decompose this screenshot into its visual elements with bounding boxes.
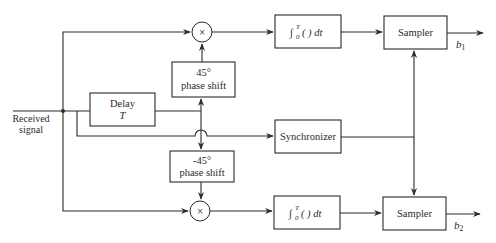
multiplier-top: × <box>192 22 212 42</box>
synchronizer-block: Synchronizer <box>275 120 341 153</box>
delay-block: Delay T <box>90 93 155 126</box>
integrator-bottom-block: ∫ 0 T ( ) dt <box>274 196 340 229</box>
sampler-top-block: Sampler <box>384 16 447 49</box>
sampler-bottom-block: Sampler <box>383 197 446 230</box>
block-diagram: Received signal Delay T 45° ph <box>0 0 496 243</box>
phase-pos-label: phase shift <box>181 80 226 91</box>
delay-output-wire <box>155 99 201 149</box>
integral-body: ( ) dt <box>302 27 323 39</box>
multiply-icon: × <box>197 207 204 216</box>
output-b1-label: b1 <box>456 38 466 52</box>
phase-neg-label: phase shift <box>179 167 224 178</box>
integrator-top-block: ∫ 0 T ( ) dt <box>275 15 341 48</box>
synchronizer-label: Synchronizer <box>280 131 336 142</box>
integral-lower: 0 <box>295 214 299 222</box>
delay-label: Delay <box>110 98 136 109</box>
multiply-icon: × <box>199 28 206 37</box>
integral-body: ( ) dt <box>301 208 322 220</box>
phase-shift-neg-block: -45° phase shift <box>170 151 234 182</box>
sampler-bottom-label: Sampler <box>397 208 432 219</box>
phase-neg-angle: -45° <box>193 155 211 166</box>
integral-lower: 0 <box>296 33 300 41</box>
phase-pos-angle: 45° <box>196 67 211 78</box>
sampler-top-label: Sampler <box>398 27 433 38</box>
input-label-line2: signal <box>19 124 43 135</box>
sync-output-wires <box>341 51 414 195</box>
phase-shift-pos-block: 45° phase shift <box>172 62 235 97</box>
output-b2-label: b2 <box>454 219 464 233</box>
multiplier-bottom: × <box>190 201 210 221</box>
input-label-line1: Received <box>12 113 49 124</box>
